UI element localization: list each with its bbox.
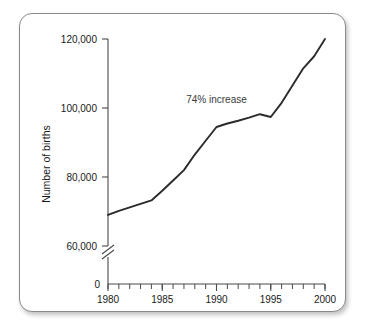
x-tick-label-1990: 1990 [205,294,228,305]
y-tick-label-0: 0 [94,279,100,290]
y-axis-title: Number of births [40,125,52,203]
x-tick-label-2000: 2000 [314,294,337,305]
y-tick-label-120000: 120,000 [61,34,98,45]
y-tick-label-80000: 80,000 [66,172,97,183]
axis-break-icon [102,245,114,259]
y-tick-label-100000: 100,000 [61,103,98,114]
x-tick-label-1995: 1995 [260,294,283,305]
x-tick-label-1985: 1985 [151,294,174,305]
figure-card: 120,000 100,000 80,000 60,000 0 Number o… [19,13,346,312]
increase-annotation: 74% increase [186,94,247,105]
births-data-line [108,39,325,215]
births-line-chart: 120,000 100,000 80,000 60,000 0 Number o… [20,14,345,311]
x-tick-label-1980: 1980 [97,294,120,305]
y-tick-label-60000: 60,000 [66,241,97,252]
